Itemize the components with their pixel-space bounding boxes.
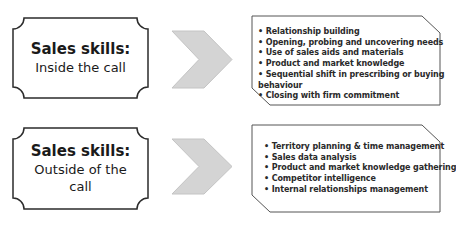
- list-item: • Competitor intelligence: [264, 174, 456, 185]
- list-item: • Product and market knowledge: [258, 59, 444, 70]
- list-item: • Sales data analysis: [264, 153, 456, 164]
- sales-skills-inside-box: Sales skills: Inside the call: [12, 17, 149, 99]
- chevron-arrow-icon: [171, 30, 233, 89]
- box-title: Sales skills:: [31, 40, 131, 59]
- list-item: • Product and market knowledge gathering: [264, 163, 456, 174]
- box-subtitle-line2: call: [31, 178, 131, 195]
- list-item: • Internal relationships management: [264, 185, 456, 196]
- inside-call-skills-list: • Relationship building • Opening, probi…: [251, 15, 441, 106]
- box-title: Sales skills:: [31, 142, 131, 161]
- list-item: • Relationship building: [258, 27, 444, 38]
- list-item: • Closing with firm commitment: [258, 91, 444, 102]
- outside-call-skills-list: • Territory planning & time management •…: [251, 124, 441, 213]
- list-item: behaviour: [258, 81, 444, 92]
- list-item: • Territory planning & time management: [264, 142, 456, 153]
- list-item: • Opening, probing and uncovering needs: [258, 38, 444, 49]
- chevron-arrow-icon: [171, 138, 233, 195]
- box-subtitle: Inside the call: [31, 59, 131, 76]
- box-subtitle: Outside of the: [31, 161, 131, 178]
- list-item: • Sequential shift in prescribing or buy…: [258, 70, 444, 81]
- list-item: • Use of sales aids and materials: [258, 48, 444, 59]
- sales-skills-outside-box: Sales skills: Outside of the call: [12, 127, 149, 210]
